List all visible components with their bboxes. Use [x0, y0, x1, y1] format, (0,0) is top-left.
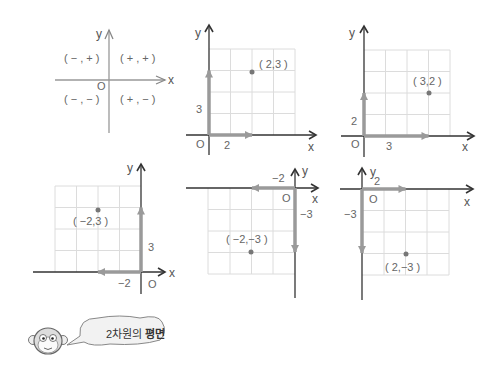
quadrant-2-label: ( − , + ) [64, 52, 99, 64]
x-step-label: 2 [224, 139, 230, 151]
point-marker [250, 70, 255, 75]
plot-point-2-3: ( 2,3 ) 2 3 O x y [186, 25, 316, 155]
x-axis-label: x [312, 192, 318, 206]
plot-point-neg2-neg3: ( −2,−3 ) −2 −3 O x y [186, 164, 318, 298]
y-axis-label: y [349, 26, 355, 40]
origin-label: O [282, 192, 291, 204]
y-step-label: 2 [351, 115, 357, 127]
origin-label: O [369, 193, 378, 205]
x-axis-label: x [464, 195, 470, 209]
origin-label: O [196, 138, 205, 150]
y-step-label: 3 [148, 241, 154, 253]
origin-label: O [97, 80, 106, 92]
plot-point-neg2-3: ( −2,3 ) −2 3 O x y [33, 161, 175, 294]
quadrant-sign-diagram: x y O ( − , + ) ( + , + ) ( − , − ) ( + … [55, 27, 174, 133]
y-step-label: −3 [344, 208, 357, 220]
x-axis-label: x [168, 73, 174, 87]
grid [364, 50, 450, 136]
plot-point-3-2: ( 3,2 ) 3 2 O x y [341, 26, 474, 157]
x-step-label: 3 [386, 140, 392, 152]
caption-prefix: 2차원의 [106, 328, 142, 340]
y-axis-label: y [127, 161, 133, 175]
y-axis-label: y [370, 165, 376, 179]
x-step-label: −2 [118, 277, 131, 289]
x-axis-label: x [462, 140, 468, 154]
grid [55, 186, 141, 272]
y-step-label: 3 [196, 103, 202, 115]
plot-point-2-neg3: ( 2,−3 ) 2 −3 O x y [340, 165, 473, 300]
quadrant-3-label: ( − , − ) [64, 93, 99, 105]
y-axis-label: y [302, 164, 308, 178]
point-marker [249, 250, 254, 255]
x-step-label: −2 [272, 172, 285, 184]
point-label: ( −2,3 ) [73, 215, 108, 227]
caption-title: 2차원의 평면 [106, 325, 165, 341]
point-label: ( 2,3 ) [259, 58, 288, 70]
point-label: ( −2,−3 ) [226, 233, 268, 245]
x-axis-label: x [169, 266, 175, 280]
monkey-mascot-icon [29, 328, 68, 354]
origin-label: O [148, 278, 157, 290]
point-marker [427, 91, 432, 96]
x-axis-label: x [308, 140, 314, 154]
coordinate-plane-diagram: x y O ( − , + ) ( + , + ) ( − , − ) ( + … [0, 0, 500, 378]
y-step-label: −3 [300, 208, 313, 220]
y-axis-label: y [96, 27, 102, 41]
quadrant-4-label: ( + , − ) [120, 93, 155, 105]
quadrant-1-label: ( + , + ) [120, 52, 155, 64]
point-marker [404, 252, 409, 257]
point-marker [96, 208, 101, 213]
point-label: ( 2,−3 ) [385, 261, 420, 273]
point-label: ( 3,2 ) [413, 75, 442, 87]
origin-label: O [351, 138, 360, 150]
y-axis-label: y [195, 26, 201, 40]
caption-bold: 평면 [145, 328, 165, 340]
